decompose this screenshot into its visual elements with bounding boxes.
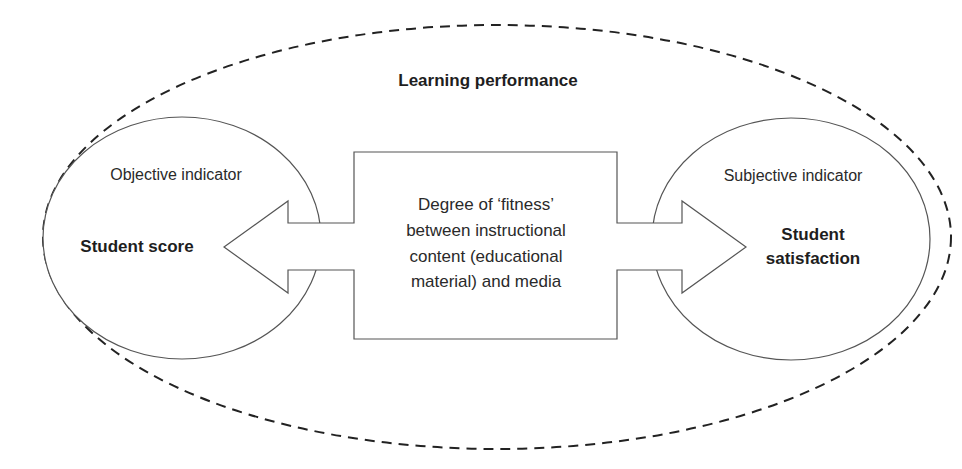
right-node-label-line: Student (781, 225, 845, 244)
diagram-canvas: Learning performance Degree of ‘fitness’… (0, 0, 962, 469)
left-node-label: Student score (80, 237, 193, 256)
outer-label: Learning performance (398, 71, 578, 90)
left-indicator-label: Objective indicator (110, 166, 242, 183)
right-indicator-label: Subjective indicator (724, 167, 863, 184)
center-box-line: material) and media (411, 272, 562, 291)
center-box-line: between instructional (406, 221, 566, 240)
center-box-line: content (educational (409, 247, 562, 266)
center-box-line: Degree of ‘fitness’ (418, 195, 554, 214)
right-node-label-line: satisfaction (766, 249, 860, 268)
